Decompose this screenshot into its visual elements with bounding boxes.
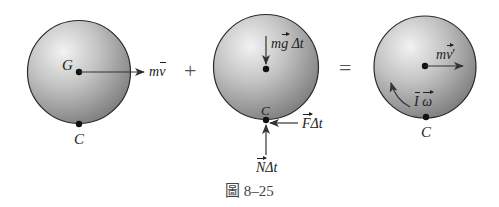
weight-impulse-label: mg Δt xyxy=(271,37,304,51)
velocity-symbol: v xyxy=(159,65,165,79)
contact-point-label: C xyxy=(74,132,84,147)
mass-symbol: m xyxy=(436,47,446,62)
linear-momentum-label: mv xyxy=(149,65,165,79)
velocity-symbol: v xyxy=(446,48,452,62)
prime-symbol: ′ xyxy=(452,47,455,62)
gravity-symbol: g xyxy=(281,37,288,51)
center-of-mass-dot xyxy=(263,66,269,72)
equals-operator: = xyxy=(339,57,351,79)
impulse-momentum-diagram: G C mv + = mg Δt C FΔt NΔt mv′ I ω C 圖 8… xyxy=(0,0,499,207)
mass-symbol: m xyxy=(149,64,159,79)
contact-point-label: C xyxy=(261,104,270,117)
inertia-symbol: I xyxy=(414,95,419,109)
contact-point-dot xyxy=(423,114,429,120)
sphere-1 xyxy=(28,21,145,128)
angular-momentum-label: I ω xyxy=(414,95,432,109)
figure-number: 8–25 xyxy=(244,183,274,199)
delta-t-symbol: Δt xyxy=(311,116,323,131)
delta-t-symbol: Δt xyxy=(292,36,304,51)
friction-symbol: F xyxy=(302,117,311,131)
omega-symbol: ω xyxy=(422,95,432,109)
normal-impulse-label: NΔt xyxy=(256,161,277,175)
center-of-mass-label: G xyxy=(62,58,73,73)
normal-symbol: N xyxy=(256,161,265,175)
friction-impulse-label: FΔt xyxy=(302,117,323,131)
figure-prefix: 圖 xyxy=(225,183,240,199)
final-momentum-label: mv′ xyxy=(436,48,455,62)
figure-caption: 圖 8–25 xyxy=(225,184,274,199)
mass-symbol: m xyxy=(271,36,281,51)
contact-point-dot xyxy=(76,121,82,127)
plus-operator: + xyxy=(184,60,196,82)
contact-point-label: C xyxy=(421,125,431,140)
delta-t-symbol: Δt xyxy=(265,160,277,175)
